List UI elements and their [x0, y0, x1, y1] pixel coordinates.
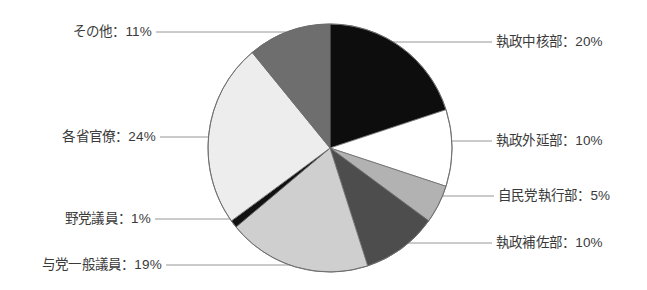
pie-label-ldp-exec: 自民党執行部：5% — [498, 189, 610, 203]
pie-chart: 執政中核部：20% 執政外延部：10% 自民党執行部：5% 執政補佐部：10% … — [0, 0, 647, 290]
pie-label-support: 執政補佐部：10% — [496, 236, 603, 250]
pie-label-opposition: 野党議員：1% — [65, 212, 151, 226]
pie-label-other: その他：11% — [73, 25, 152, 39]
pie-label-ruling-members: 与党一般議員：19% — [42, 258, 162, 272]
pie-label-outer: 執政外延部：10% — [496, 134, 603, 148]
pie-label-bureaucrats: 各省官僚：24% — [62, 130, 156, 144]
pie-label-core: 執政中核部：20% — [496, 35, 603, 49]
pie-slices — [208, 24, 452, 272]
